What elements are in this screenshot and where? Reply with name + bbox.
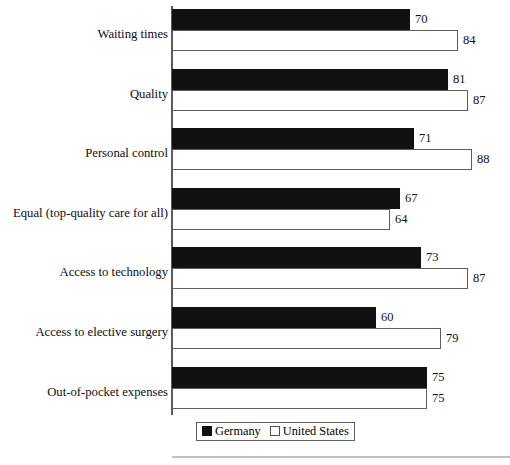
- bar-value-label: 87: [473, 94, 486, 107]
- bar-group: 7387: [172, 247, 508, 289]
- legend-item-germany: Germany: [202, 425, 261, 437]
- bar-united-states: [172, 30, 458, 51]
- bar-group: 7575: [172, 367, 508, 409]
- bar-group: 7188: [172, 128, 508, 170]
- bar-value-label: 84: [463, 34, 476, 47]
- bar-value-label: 60: [381, 311, 394, 324]
- bar-value-label: 73: [426, 251, 439, 264]
- legend-label-germany: Germany: [215, 425, 261, 437]
- bar-value-label: 79: [446, 332, 459, 345]
- footer-rule: [172, 456, 510, 458]
- legend-swatch-germany-icon: [202, 426, 212, 436]
- category-label: Quality: [130, 88, 168, 102]
- category-label: Equal (top-quality care for all): [13, 207, 168, 221]
- bar-germany: [172, 307, 376, 328]
- bar-value-label: 87: [473, 272, 486, 285]
- category-label: Access to technology: [59, 266, 168, 280]
- legend-item-united-states: United States: [270, 425, 349, 437]
- category-label: Out-of-pocket expenses: [47, 386, 168, 400]
- bar-value-label: 75: [432, 371, 445, 384]
- bar-united-states: [172, 149, 472, 170]
- bar-united-states: [172, 388, 427, 409]
- bar-value-label: 70: [415, 13, 428, 26]
- category-label: Waiting times: [97, 28, 168, 42]
- bar-value-label: 71: [419, 132, 432, 145]
- bar-value-label: 67: [405, 192, 418, 205]
- bar-germany: [172, 367, 427, 388]
- legend-label-united-states: United States: [283, 425, 349, 437]
- legend-swatch-united-states-icon: [270, 426, 280, 436]
- category-label: Access to elective surgery: [35, 326, 168, 340]
- bar-value-label: 81: [453, 73, 466, 86]
- category-labels: Waiting timesQualityPersonal controlEqua…: [0, 0, 168, 418]
- chart-legend: Germany United States: [196, 422, 355, 441]
- bar-group: 8187: [172, 69, 508, 111]
- bar-germany: [172, 9, 410, 30]
- bar-group: 7084: [172, 9, 508, 51]
- bar-germany: [172, 247, 421, 268]
- bar-germany: [172, 128, 414, 149]
- bar-value-label: 75: [432, 392, 445, 405]
- bar-united-states: [172, 268, 468, 289]
- bar-group: 6764: [172, 188, 508, 230]
- bar-value-label: 64: [395, 213, 408, 226]
- bar-united-states: [172, 209, 390, 230]
- plot-area: 7084818771886764738760797575: [172, 0, 508, 418]
- bar-germany: [172, 69, 448, 90]
- bar-value-label: 88: [477, 153, 490, 166]
- bar-germany: [172, 188, 400, 209]
- bar-united-states: [172, 328, 441, 349]
- category-label: Personal control: [85, 147, 168, 161]
- bar-group: 6079: [172, 307, 508, 349]
- bar-united-states: [172, 90, 468, 111]
